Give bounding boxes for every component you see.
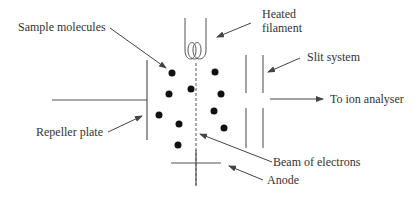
arrow-sample-molecules xyxy=(110,28,166,68)
heated-filament-icon xyxy=(185,18,206,59)
label-beam-of-electrons: Beam of electrons xyxy=(273,156,360,169)
slit-system xyxy=(246,55,263,148)
sample-molecules xyxy=(156,69,228,149)
arrow-slit-system xyxy=(268,58,300,72)
arrow-anode xyxy=(229,166,263,180)
label-heated-filament-line1: Heated xyxy=(262,8,296,21)
label-to-ion-analyser: To ion analyser xyxy=(330,93,404,106)
arrow-heated-filament xyxy=(217,23,251,37)
label-heated-filament-line2: filament xyxy=(262,22,302,35)
label-sample-molecules: Sample molecules xyxy=(18,21,106,34)
label-repeller-plate: Repeller plate xyxy=(36,126,103,139)
anode xyxy=(171,150,221,186)
label-anode: Anode xyxy=(267,174,299,187)
arrow-beam-of-electrons xyxy=(200,134,272,162)
arrow-repeller-plate xyxy=(108,116,142,132)
label-slit-system: Slit system xyxy=(307,51,360,64)
ionisation-diagram: Sample molecules Heated filament Slit sy… xyxy=(0,0,420,201)
